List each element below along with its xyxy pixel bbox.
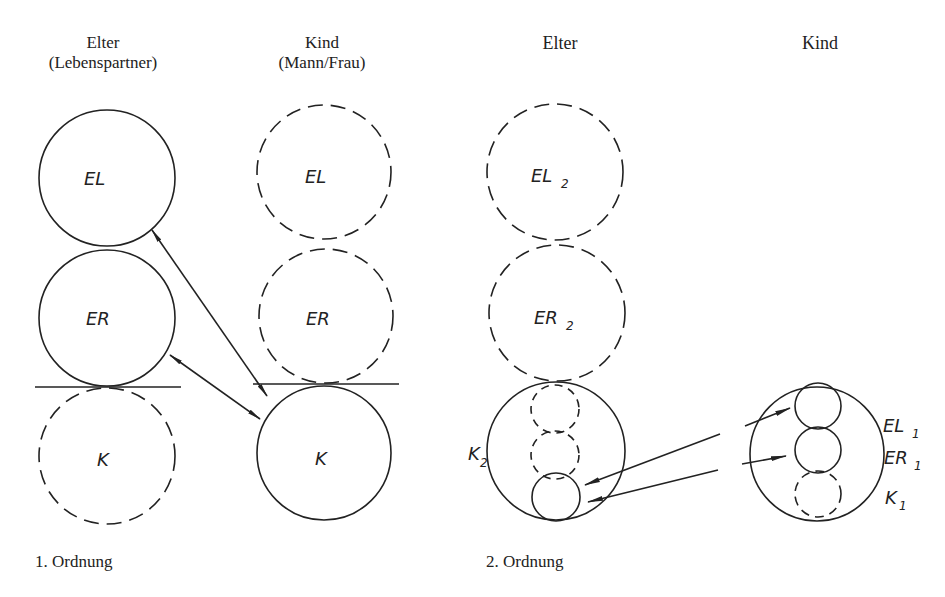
diagram-canvas: EL ER K EL ER K EL 2 ER 2 K 2 EL 1 ER 1 … (0, 0, 945, 597)
order2-child-el1-circle (795, 383, 841, 429)
order2-child-el1-label: EL (883, 415, 904, 436)
order2-parent-k2-sub: 2 (480, 456, 488, 470)
order2-child-er1-label: ER (884, 447, 908, 468)
order2-child-outer-circle (750, 387, 884, 521)
order1-child-k-label: K (315, 448, 328, 469)
order1-parent-el-label: EL (84, 168, 105, 189)
order2-arrow-el1-shaft-b (745, 408, 790, 426)
order2-child-k1-sub: 1 (899, 499, 907, 513)
order2-parent-er2-sub: 2 (566, 319, 574, 333)
order2-parent-el2-label: EL (531, 165, 552, 186)
order1-parent-el-circle (39, 110, 175, 246)
order1-child-er-label: ER (306, 308, 330, 329)
order1-parent-k-label: K (97, 449, 110, 470)
order2-child-er1-circle (795, 427, 841, 473)
order1-child-el-label: EL (305, 166, 326, 187)
order2-parent-k2-inner-k (532, 473, 580, 521)
order1-parent-er-label: ER (86, 308, 110, 329)
order2-parent-er2-label: ER (534, 307, 558, 328)
order2-parent-el2-circle-dashed (487, 104, 623, 240)
order2-child-k1-circle-dashed (795, 471, 841, 517)
order2-parent-el2-sub: 2 (561, 177, 569, 191)
order2-parent-k2-inner-er-dashed (531, 431, 579, 479)
order2-parent-k2-circle (487, 382, 625, 520)
order1-arrow-el-to-k (152, 230, 267, 396)
order2-child-k1-label: K (885, 487, 898, 508)
order1-arrow-er-to-k (170, 355, 260, 419)
order2-child-er1-sub: 1 (914, 459, 922, 473)
order2-arrow-er1-shaft-b (742, 456, 786, 464)
order2-parent-k2-inner-el-dashed (531, 385, 579, 433)
order2-arrow-el1-shaft-a (585, 434, 720, 485)
order2-arrow-er1-shaft-a (588, 470, 718, 502)
order2-child-el1-sub: 1 (912, 427, 920, 441)
